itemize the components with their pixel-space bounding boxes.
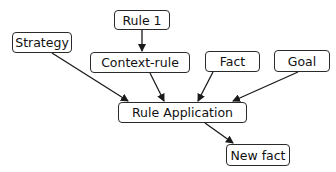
node-goal: Goal: [274, 50, 330, 72]
node-strategy: Strategy: [12, 32, 72, 53]
node-rule-1: Rule 1: [114, 10, 170, 30]
edge-fact-to-rule-application: [198, 72, 213, 101]
node-new-fact: New fact: [226, 144, 290, 166]
node-rule-application: Rule Application: [118, 102, 247, 123]
node-context-rule: Context-rule: [90, 52, 190, 73]
edge-rule-application-to-new-fact: [205, 123, 233, 143]
edge-goal-to-rule-application: [233, 72, 298, 101]
edge-context-rule-to-rule-application: [150, 73, 164, 101]
node-fact: Fact: [205, 51, 260, 72]
